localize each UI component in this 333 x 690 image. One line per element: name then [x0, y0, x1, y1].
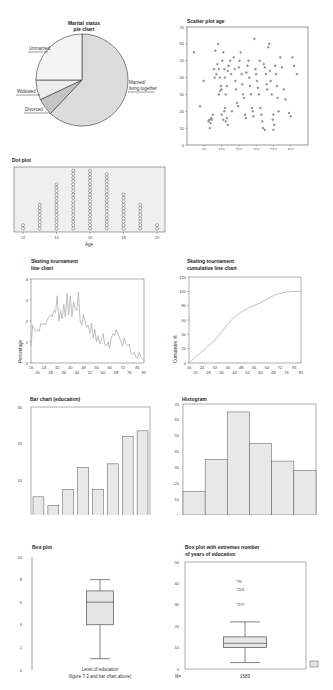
svg-text:30: 30 [175, 465, 180, 470]
svg-text:50: 50 [175, 560, 180, 565]
svg-text:200: 200 [253, 147, 260, 150]
svg-text:64: 64 [265, 365, 270, 370]
svg-text:16: 16 [187, 365, 192, 370]
svg-text:4: 4 [20, 622, 23, 627]
svg-text:120: 120 [179, 275, 186, 280]
svg-text:18: 18 [121, 235, 126, 240]
extreme-label: *379 [236, 602, 245, 607]
box-extremes-title: Box plot with extremes number [185, 544, 260, 550]
svg-text:0: 0 [20, 668, 23, 673]
bar [48, 505, 59, 515]
histogram: Histogram 010203040506070 1.02.03.04.05.… [165, 375, 333, 515]
svg-text:0: 0 [177, 667, 180, 672]
line-title-2: line chart [31, 265, 54, 271]
svg-text:72: 72 [120, 365, 125, 370]
pie-slice [36, 34, 82, 80]
histogram-bar [250, 444, 272, 515]
svg-text:24: 24 [42, 365, 47, 370]
dot-plot: Dot plot 1214161820 Age [0, 150, 170, 250]
box-axes: 0246810 [18, 555, 32, 673]
svg-text:50: 50 [180, 58, 185, 63]
svg-text:32: 32 [55, 365, 60, 370]
cumulative-title-2: cumulative line chart [187, 265, 237, 271]
bar [107, 464, 118, 515]
bar [63, 490, 74, 516]
svg-text:20: 20 [175, 624, 180, 629]
box-extremes-n-label: N= [175, 674, 181, 679]
svg-text:0: 0 [182, 143, 185, 148]
pie-label-married-2: living together [129, 86, 158, 91]
bar-chart: Bar chart (education) 0102030 LOLBOMAVOM… [0, 375, 170, 515]
svg-text:72: 72 [278, 365, 283, 370]
svg-text:60: 60 [180, 41, 185, 46]
svg-text:40: 40 [175, 449, 180, 454]
bar-axes: 0102030 [18, 405, 23, 516]
svg-text:2: 2 [26, 319, 29, 324]
box-title: Box plot [32, 544, 52, 550]
histogram-bar [294, 471, 316, 515]
line-ylabel: Percentage [18, 339, 23, 363]
extreme-label: *95 [236, 579, 243, 584]
histogram-axes: 010203040506070 [175, 402, 180, 516]
line-chart: Skating tournament line chart 0123416243… [0, 255, 170, 375]
pie-chart: Marital status pie chart Married/ living… [0, 0, 170, 140]
bar [93, 490, 104, 516]
svg-text:70: 70 [175, 402, 180, 407]
svg-text:30: 30 [175, 602, 180, 607]
cumulative-line-chart: Skating tournament cumulative line chart… [165, 255, 333, 375]
bar [78, 468, 89, 516]
svg-text:48: 48 [239, 365, 244, 370]
svg-text:30: 30 [180, 92, 185, 97]
svg-text:60: 60 [182, 318, 187, 323]
svg-text:50: 50 [175, 433, 180, 438]
svg-text:40: 40 [68, 365, 73, 370]
svg-text:40: 40 [182, 332, 187, 337]
svg-text:40: 40 [226, 365, 231, 370]
svg-text:24: 24 [200, 365, 205, 370]
box-shape [87, 580, 114, 659]
histogram-bar [183, 491, 205, 515]
box-plot: Box plot 0246810 Level of education (fig… [0, 515, 170, 690]
svg-text:81: 81 [135, 365, 140, 370]
histogram-bar [205, 460, 227, 516]
box-extremes-title-2: of years of education [185, 551, 235, 557]
pie-label-widowed: Widowed [17, 89, 36, 94]
line-title: Skating tournament [31, 258, 78, 264]
svg-text:20: 20 [175, 481, 180, 486]
svg-text:10: 10 [180, 126, 185, 131]
svg-text:2: 2 [20, 645, 23, 650]
svg-text:10: 10 [175, 645, 180, 650]
svg-text:4: 4 [26, 277, 29, 282]
svg-text:8: 8 [20, 577, 23, 582]
scatter-chart: Scatter plot age 01020304050607050100150… [165, 0, 333, 150]
svg-text:10: 10 [175, 497, 180, 502]
svg-text:250: 250 [270, 147, 277, 150]
cumulative-title: Skating tournament [187, 258, 234, 264]
svg-text:48: 48 [81, 365, 86, 370]
svg-text:16: 16 [29, 365, 34, 370]
box-plot-extremes: Box plot with extremes number of years o… [165, 515, 333, 690]
scatter-title: Scatter plot age [187, 18, 225, 24]
box-extremes-n-value: 1589 [240, 674, 251, 679]
svg-text:1: 1 [26, 340, 29, 345]
pie-title-line2: pie chart [74, 26, 95, 32]
svg-text:70: 70 [180, 25, 185, 30]
svg-text:300: 300 [287, 147, 294, 150]
svg-text:50: 50 [202, 147, 207, 150]
svg-text:56: 56 [252, 365, 257, 370]
svg-text:150: 150 [236, 147, 243, 150]
svg-text:6: 6 [20, 600, 23, 605]
svg-text:20: 20 [155, 235, 160, 240]
svg-text:20: 20 [182, 346, 187, 351]
box-extremes-axes: 01020304050 [175, 560, 180, 672]
svg-text:81: 81 [292, 365, 297, 370]
pie-label-married: Married/ [129, 80, 146, 85]
svg-text:16: 16 [88, 235, 93, 240]
svg-text:40: 40 [180, 75, 185, 80]
svg-text:12: 12 [21, 235, 26, 240]
svg-text:60: 60 [175, 417, 180, 422]
extreme-label: *203 [236, 587, 245, 592]
cumulative-ylabel: Cumulative % [173, 335, 178, 363]
pie-label-unmarried: Unmarried [29, 46, 51, 51]
box-xlabel: Level of education [82, 667, 119, 672]
